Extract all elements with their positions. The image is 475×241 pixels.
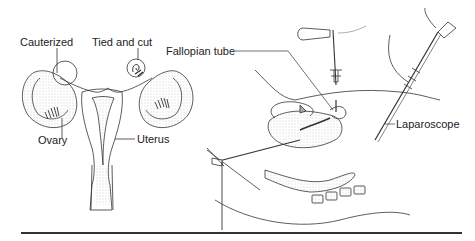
label-tied-and-cut: Tied and cut <box>92 36 152 48</box>
uterus-anatomy-illustration <box>22 48 193 210</box>
label-cauterized: Cauterized <box>20 36 73 48</box>
pelvic-uterus <box>268 111 342 148</box>
uterine-cavity <box>92 97 114 166</box>
label-ovary: Ovary <box>38 134 67 146</box>
abdominal-wall <box>255 70 440 100</box>
right-ovary-shape <box>139 71 193 128</box>
probe-ring-handle <box>298 28 330 40</box>
label-uterus: Uterus <box>137 133 169 145</box>
uterine-manipulator <box>215 140 300 162</box>
bottom-divider-rule <box>21 232 462 234</box>
probe-shaft <box>333 30 336 85</box>
label-fallopian-tube: Fallopian tube <box>166 45 235 57</box>
tied-loop-icon <box>133 65 139 72</box>
laparoscope-eyepiece <box>438 22 456 38</box>
label-laparoscope: Laparoscope <box>396 118 460 130</box>
vertebra <box>312 195 323 203</box>
